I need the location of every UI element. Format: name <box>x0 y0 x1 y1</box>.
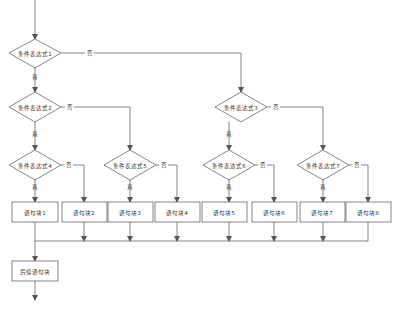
false-label-c7: 否 <box>354 162 360 169</box>
condition-label-2: 条件表达式2 <box>18 104 52 112</box>
false-label-c1: 否 <box>87 50 93 57</box>
block-label-5: 语句块5 <box>213 209 235 217</box>
true-label-c7: 真 <box>320 183 326 191</box>
false-label-c4: 否 <box>66 162 72 169</box>
condition-label-5: 条件表达式5 <box>113 162 147 170</box>
block-label-8: 语句块8 <box>357 209 379 217</box>
true-label-c1: 真 <box>32 73 38 81</box>
edge-c2-false <box>61 107 130 150</box>
condition-label-3: 条件表达式3 <box>224 104 258 112</box>
block-label-7: 语句块7 <box>311 209 333 217</box>
edge-c4-false <box>61 165 84 202</box>
false-label-c5: 否 <box>161 162 167 169</box>
block-label-1: 语句块1 <box>24 209 46 217</box>
subsequent-block-label: 后续语句块 <box>20 268 50 276</box>
block-label-3: 语句块3 <box>119 209 141 217</box>
condition-label-4: 条件表达式4 <box>18 162 52 170</box>
true-label-c2: 真 <box>32 130 38 138</box>
false-label-c3: 否 <box>273 104 279 111</box>
edge-c7-false <box>349 165 368 202</box>
condition-label-1: 条件表达式1 <box>18 50 52 58</box>
condition-label-7: 条件表达式7 <box>306 162 340 170</box>
edge-c1-false <box>61 53 241 92</box>
flowchart: 条件表达式1 条件表达式2 条件表达式3 条件表达式4 条件表达式5 条件表达式… <box>0 0 403 311</box>
edge-c5-false <box>156 165 177 202</box>
true-label-c4: 真 <box>32 183 38 191</box>
block-label-4: 语句块4 <box>166 209 188 217</box>
true-label-c6: 真 <box>226 183 232 191</box>
true-label-c5: 真 <box>127 183 133 191</box>
block-label-2: 语句块2 <box>73 209 95 217</box>
false-label-c6: 否 <box>260 162 266 169</box>
edge-c3-false <box>267 107 323 150</box>
true-label-c3: 真 <box>226 130 232 138</box>
block-label-6: 语句块6 <box>263 209 285 217</box>
false-label-c2: 否 <box>67 104 73 111</box>
edge-c6-false <box>255 165 274 202</box>
condition-label-6: 条件表达式6 <box>212 162 246 170</box>
